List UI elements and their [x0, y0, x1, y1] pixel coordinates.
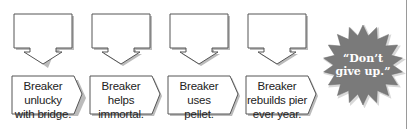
label-line: uses	[168, 93, 230, 107]
step-4: Breaker rebuilds pier ever year.	[244, 0, 320, 129]
label-line: rebuilds pier	[246, 93, 308, 107]
burst-quote: “Don’t give up.”	[320, 52, 406, 78]
label-line: with bridge.	[12, 107, 74, 121]
step-2: Breaker helps immortal.	[88, 0, 164, 129]
step-label: Breaker uses pellet.	[168, 79, 230, 121]
right-border-rule	[406, 0, 407, 129]
label-line: Breaker	[246, 79, 308, 93]
burst-line: “Don’t	[320, 52, 406, 65]
label-line: ever year.	[246, 107, 308, 121]
empty-callout-box	[244, 0, 324, 72]
label-line: Breaker	[12, 79, 74, 93]
label-line: pellet.	[168, 107, 230, 121]
step-label: Breaker helps immortal.	[90, 79, 152, 121]
label-line: helps	[90, 93, 152, 107]
label-line: Breaker	[90, 79, 152, 93]
label-line: unlucky	[12, 93, 74, 107]
empty-callout-box	[88, 0, 168, 72]
step-1: Breaker unlucky with bridge.	[10, 0, 86, 129]
step-label: Breaker unlucky with bridge.	[12, 79, 74, 121]
empty-callout-box	[10, 0, 90, 72]
empty-callout-box	[166, 0, 246, 72]
label-line: Breaker	[168, 79, 230, 93]
step-3: Breaker uses pellet.	[166, 0, 242, 129]
label-line: immortal.	[90, 107, 152, 121]
burst-line: give up.”	[320, 65, 406, 78]
step-label: Breaker rebuilds pier ever year.	[246, 79, 308, 121]
